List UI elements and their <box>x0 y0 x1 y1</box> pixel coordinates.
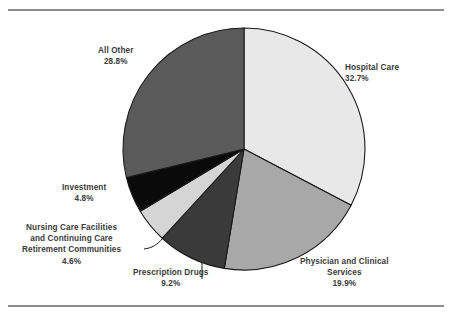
pie-chart-figure: Hospital Care 32.7% Physician and Clinic… <box>0 0 452 317</box>
pie-slice-group <box>123 28 365 270</box>
slice-label-prescription-drugs: Prescription Drugs 9.2% <box>133 267 209 289</box>
slice-label-text-line-2: and Continuing Care <box>30 234 112 243</box>
slice-label-text-line-1: Nursing Care Facilities <box>26 223 117 232</box>
slice-label-all-other: All Other 28.8% <box>98 45 133 67</box>
slice-label-text-line-3: Retirement Communities <box>22 245 121 254</box>
slice-label-text-line-1: Physician and Clinical <box>300 257 389 266</box>
slice-label-value: 32.7% <box>345 73 399 84</box>
slice-label-text: Investment <box>62 183 106 192</box>
slice-label-text-line-2: Services <box>327 268 362 277</box>
slice-label-text: Hospital Care <box>345 63 399 72</box>
slice-label-physician-and-clinical-services: Physician and Clinical Services 19.9% <box>300 256 389 290</box>
slice-label-value: 9.2% <box>133 278 209 289</box>
slice-label-text: All Other <box>98 46 133 55</box>
leader-line-nursing-care-facilities <box>144 238 163 249</box>
slice-label-value: 28.8% <box>98 56 133 67</box>
slice-label-value: 19.9% <box>300 278 389 289</box>
slice-label-hospital-care: Hospital Care 32.7% <box>345 62 399 84</box>
slice-label-nursing-care-facilities: Nursing Care Facilities and Continuing C… <box>22 222 121 267</box>
slice-label-value: 4.8% <box>62 193 106 204</box>
slice-label-investment: Investment 4.8% <box>62 182 106 204</box>
slice-label-text: Prescription Drugs <box>133 268 209 277</box>
slice-label-value: 4.6% <box>22 256 121 267</box>
